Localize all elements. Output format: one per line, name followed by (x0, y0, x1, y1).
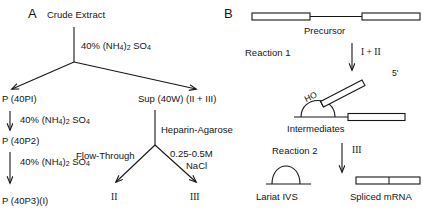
figure-canvas: A Crude Extract 40% (NH4)2 SO4 P (40PI) … (0, 0, 423, 214)
annotation-five-prime: 5' (392, 69, 398, 78)
edge-label-nacl-salt: NaCl (186, 161, 207, 171)
edge-label-reaction-2: Reaction 2 (272, 146, 317, 156)
edge-to-p40p1 (12, 62, 74, 89)
edge-label-reaction-1-products: I + II (361, 48, 381, 58)
panel-b-label: B (224, 7, 233, 20)
as3-formula-pre: (NH (42, 156, 59, 167)
as2-formula-pre: (NH (42, 114, 59, 125)
precursor-exon2 (362, 13, 420, 20)
node-flow-through-product: II (111, 193, 117, 203)
intermediate-free-exon-5prime (321, 80, 366, 107)
panel-a-label: A (28, 7, 37, 20)
node-precursor: Precursor (304, 26, 345, 36)
edge-label-reaction-2-products: III (352, 146, 362, 156)
as1-formula-pre: (NH (103, 40, 120, 51)
node-intermediates: Intermediates (287, 124, 345, 134)
node-p40p1: P (40PI) (2, 94, 37, 104)
as1-percent: 40% (81, 40, 100, 51)
as1-sub3: 4 (147, 44, 151, 51)
edge-label-ammonium-sulfate-2: 40% (NH4)2 SO4 (20, 115, 90, 125)
as1-post: SO (133, 40, 147, 51)
edge-label-nacl-concentration: 0.25-0.5M (170, 149, 213, 159)
edge-label-flow-through: Flow-Through (76, 151, 135, 161)
as2-percent: 40% (20, 114, 39, 125)
edge-label-reaction-1: Reaction 1 (245, 48, 290, 58)
figure-linework (0, 0, 423, 214)
node-p40p2: P (40P2) (2, 136, 39, 146)
intermediate-exon2 (348, 114, 405, 121)
as2-post: SO (72, 114, 86, 125)
lariat-ivs-loop (272, 166, 300, 184)
edge-to-sup40w (74, 62, 196, 89)
node-p40p3: P (40P3)(I) (2, 196, 48, 206)
node-nacl-product: III (190, 193, 200, 203)
precursor-exon1 (252, 13, 310, 20)
node-spliced-mrna: Spliced mRNA (350, 192, 412, 202)
as3-percent: 40% (20, 156, 39, 167)
spliced-mrna-box (356, 177, 420, 184)
edge-label-ammonium-sulfate-1: 40% (NH4)2 SO4 (81, 41, 151, 51)
edge-label-heparin-agarose: Heparin-Agarose (161, 125, 233, 135)
node-crude-extract: Crude Extract (47, 10, 105, 20)
as3-sub3: 4 (86, 160, 90, 167)
as2-sub3: 4 (86, 118, 90, 125)
node-lariat-ivs: Lariat IVS (256, 192, 298, 202)
node-sup40w: Sup (40W) (II + III) (138, 94, 216, 104)
